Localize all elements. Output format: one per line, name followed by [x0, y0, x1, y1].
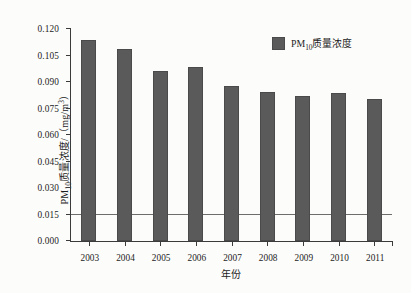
- x-axis-tick: 2006: [196, 241, 197, 246]
- x-axis-tick-label: 2004: [116, 253, 135, 263]
- y-axis-tick: 0.090: [66, 81, 71, 82]
- y-axis-tick-label: 0.060: [38, 130, 59, 140]
- y-axis-title-prefix: PM: [59, 189, 70, 204]
- y-axis-tick: 0.075: [66, 108, 71, 109]
- y-axis-tick: 0.030: [66, 187, 71, 188]
- y-axis-tick-label: 0.015: [38, 210, 59, 220]
- x-axis-tick: 2003: [89, 241, 90, 246]
- y-axis-tick-label: 0.030: [38, 183, 59, 193]
- bar[interactable]: [188, 67, 203, 241]
- bar[interactable]: [224, 86, 239, 241]
- y-axis-tick-label: 0.045: [38, 157, 59, 167]
- y-axis-tick-label: 0.105: [38, 51, 59, 61]
- x-axis-end-tick: [392, 241, 393, 246]
- x-axis-tick: 2007: [232, 241, 233, 246]
- bar[interactable]: [367, 99, 382, 241]
- bar[interactable]: [117, 49, 132, 241]
- bar[interactable]: [81, 40, 96, 241]
- bar[interactable]: [295, 96, 310, 241]
- x-axis-tick-label: 2010: [330, 253, 349, 263]
- plot-area: 0.0000.0150.0300.0450.0600.0750.0900.105…: [70, 29, 392, 242]
- chart-figure: PM10质量浓度/（mg/m3） PM10质量浓度 0.0000.0150.03…: [0, 0, 411, 293]
- y-axis-tick-label: 0.090: [38, 77, 59, 87]
- y-axis-tick-label: 0.120: [38, 24, 59, 34]
- x-axis-tick-label: 2011: [366, 253, 384, 263]
- x-axis-tick-label: 2005: [152, 253, 171, 263]
- y-axis-tick-label: 0.075: [38, 104, 59, 114]
- y-axis-tick: 0.045: [66, 161, 71, 162]
- x-axis-title: 年份: [70, 266, 392, 281]
- x-axis-tick: 2005: [160, 241, 161, 246]
- x-axis-tick-label: 2006: [188, 253, 207, 263]
- y-axis-tick: 0.000: [66, 240, 71, 241]
- x-axis-tick: 2010: [339, 241, 340, 246]
- bar[interactable]: [331, 93, 346, 241]
- y-axis-tick: 0.120: [66, 28, 71, 29]
- y-axis-tick-label: 0.000: [38, 236, 59, 246]
- x-axis-tick: 2008: [267, 241, 268, 246]
- x-axis-tick: 2004: [125, 241, 126, 246]
- x-axis-tick: 2011: [374, 241, 375, 246]
- y-axis-tick: 0.105: [66, 55, 71, 56]
- x-axis-tick-label: 2008: [259, 253, 278, 263]
- bar[interactable]: [260, 92, 275, 241]
- x-axis-tick-label: 2009: [295, 253, 314, 263]
- x-axis-tick-label: 2007: [223, 253, 242, 263]
- y-axis-tick: 0.060: [66, 134, 71, 135]
- y-axis-title-middle: 质量浓度/（mg/m: [59, 103, 70, 181]
- y-axis-title-suffix: ）: [59, 89, 70, 99]
- x-axis-tick: 2009: [303, 241, 304, 246]
- bar[interactable]: [153, 71, 168, 241]
- x-axis-tick-label: 2003: [81, 253, 100, 263]
